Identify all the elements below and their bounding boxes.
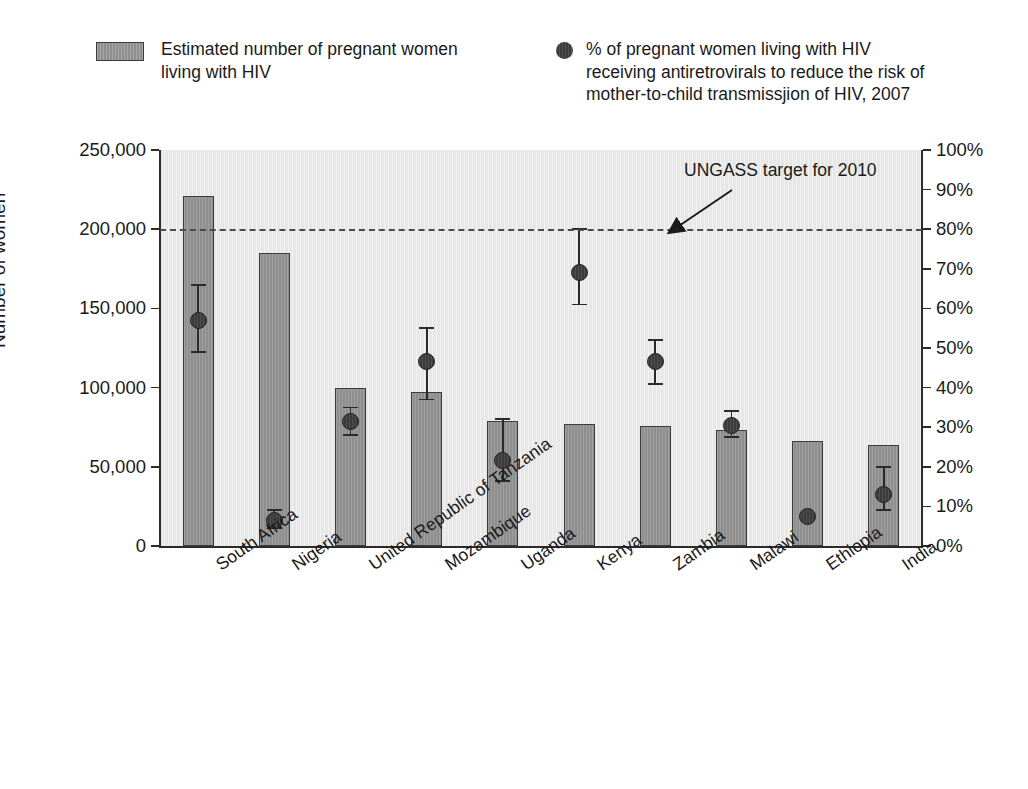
dot-marker-icon — [556, 42, 573, 59]
chart-root: Estimated number of pregnant women livin… — [0, 0, 1028, 789]
y-axis-right-tick — [923, 387, 931, 389]
bar — [259, 253, 290, 546]
y-axis-right-tick-labels: 0%10%20%30%40%50%60%70%80%90%100% — [936, 0, 1028, 789]
error-bar-cap-upper — [495, 418, 510, 420]
y-axis-right-tick-label: 60% — [936, 297, 973, 319]
error-bar-cap-upper — [191, 284, 206, 286]
y-axis-right-tick — [923, 268, 931, 270]
y-axis-left-tick — [151, 545, 159, 547]
error-bar-cap-lower — [419, 399, 434, 401]
y-axis-left-line — [159, 150, 161, 547]
ungass-target-line — [160, 229, 922, 231]
legend-label-dots: % of pregnant women living with HIV rece… — [586, 38, 924, 106]
error-bar-cap-upper — [876, 466, 891, 468]
y-axis-right-tick-label: 40% — [936, 377, 973, 399]
legend-label-bars: Estimated number of pregnant women livin… — [161, 38, 458, 83]
x-axis-tick-label: United Republic of Tanzania — [365, 558, 377, 575]
y-axis-title: Number of women — [0, 193, 10, 348]
y-axis-left-tick — [151, 308, 159, 310]
error-bar-cap-lower — [343, 434, 358, 436]
error-bar-cap-upper — [648, 339, 663, 341]
error-bar-cap-lower — [876, 509, 891, 511]
y-axis-right-tick — [923, 308, 931, 310]
y-axis-left-tick — [151, 149, 159, 151]
x-axis-tick-label: Nigeria — [288, 558, 300, 575]
y-axis-right-tick-label: 30% — [936, 416, 973, 438]
y-axis-right-tick — [923, 189, 931, 191]
error-bar-cap-upper — [724, 410, 739, 412]
error-bar-cap-lower — [724, 436, 739, 438]
x-axis-tick-label: Zambia — [669, 558, 681, 575]
error-bar-cap-upper — [419, 327, 434, 329]
y-axis-right-tick — [923, 506, 931, 508]
y-axis-left-tick-label: 200,000 — [79, 218, 146, 240]
y-axis-right-tick — [923, 426, 931, 428]
y-axis-right-tick — [923, 347, 931, 349]
data-point-dot — [190, 312, 207, 329]
bar — [640, 426, 671, 546]
data-point-dot — [342, 413, 359, 430]
y-axis-right-tick-label: 100% — [936, 139, 983, 161]
chart-legend: Estimated number of pregnant women livin… — [0, 0, 1028, 130]
x-axis-tick-label: Uganda — [517, 558, 529, 575]
data-point-dot — [571, 264, 588, 281]
legend-entry-bars: Estimated number of pregnant women livin… — [96, 38, 458, 83]
y-axis-left-tick-label: 150,000 — [79, 297, 146, 319]
data-point-dot — [799, 508, 816, 525]
y-axis-right-tick — [923, 228, 931, 230]
legend-entry-dots: % of pregnant women living with HIV rece… — [556, 38, 924, 106]
y-axis-left-tick — [151, 387, 159, 389]
y-axis-left-tick-labels: 050,000100,000150,000200,000250,000 — [0, 0, 146, 789]
y-axis-left-tick-label: 250,000 — [79, 139, 146, 161]
error-bar-cap-upper — [343, 407, 358, 409]
error-bar-cap-lower — [648, 383, 663, 385]
x-axis-tick-label: South Africa — [212, 558, 224, 575]
y-axis-left-tick — [151, 466, 159, 468]
y-axis-right-tick-label: 80% — [936, 218, 973, 240]
y-axis-left-tick-label: 50,000 — [89, 456, 146, 478]
ungass-target-label: UNGASS target for 2010 — [684, 160, 877, 181]
bar — [792, 441, 823, 546]
y-axis-right-tick — [923, 466, 931, 468]
y-axis-right-tick-label: 20% — [936, 456, 973, 478]
error-bar-cap-lower — [572, 304, 587, 306]
x-axis-tick-label: Kenya — [593, 558, 605, 575]
bar — [183, 196, 214, 546]
error-bar-cap-lower — [191, 351, 206, 353]
y-axis-left-tick — [151, 228, 159, 230]
annotation-arrow-icon — [660, 186, 740, 242]
y-axis-right-tick-label: 70% — [936, 258, 973, 280]
y-axis-left-tick-label: 0 — [136, 535, 146, 557]
y-axis-right-tick-label: 90% — [936, 179, 973, 201]
y-axis-right-tick — [923, 149, 931, 151]
x-axis-tick-label: Malawi — [746, 558, 758, 575]
y-axis-right-tick-label: 0% — [936, 535, 963, 557]
data-point-dot — [723, 417, 740, 434]
x-axis-tick-label: India — [898, 558, 910, 575]
y-axis-right-tick-label: 50% — [936, 337, 973, 359]
bar — [716, 430, 747, 546]
y-axis-right-tick-label: 10% — [936, 495, 973, 517]
y-axis-left-tick-label: 100,000 — [79, 377, 146, 399]
x-axis-tick-label: Mozambique — [441, 558, 453, 575]
x-axis-tick-label: Ethiopia — [822, 558, 834, 575]
